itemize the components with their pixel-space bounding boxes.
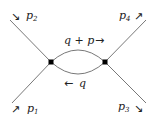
arrow-p2: ↘ bbox=[11, 10, 20, 23]
feynman-diagram: ↘ p2 p4 ↗ ↗ p1 p3 ↘ q + p → ← q bbox=[0, 0, 156, 124]
leg-p2 bbox=[10, 20, 51, 62]
loop-upper-propagator bbox=[51, 50, 105, 62]
arrow-p4: ↗ bbox=[134, 10, 143, 23]
label-p1: p1 bbox=[27, 102, 39, 116]
arrow-loop-upper: → bbox=[95, 34, 104, 47]
vertex-right bbox=[103, 60, 108, 65]
leg-p3 bbox=[105, 62, 146, 103]
label-p4: p4 bbox=[119, 9, 131, 23]
label-p2: p2 bbox=[26, 9, 38, 23]
loop-lower-propagator bbox=[51, 62, 105, 74]
label-loop-upper: q + p bbox=[64, 34, 94, 47]
arrow-loop-lower: ← bbox=[64, 77, 73, 90]
label-p3: p3 bbox=[118, 100, 130, 114]
arrow-p3: ↘ bbox=[134, 102, 143, 115]
vertex-left bbox=[49, 60, 54, 65]
leg-p4 bbox=[105, 20, 146, 62]
leg-p1 bbox=[12, 62, 51, 103]
label-loop-lower: q bbox=[79, 77, 86, 90]
arrow-p1: ↗ bbox=[11, 103, 20, 116]
